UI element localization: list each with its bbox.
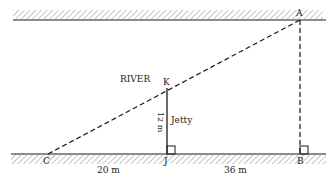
bottom-bank-hatching [11, 155, 326, 164]
line-ca-dashed [48, 20, 300, 154]
top-bank-hatching [13, 10, 323, 19]
jb-distance-label: 36 m [224, 165, 247, 175]
cj-distance-label: 20 m [97, 165, 120, 175]
jetty-length-label: 12 m [156, 112, 165, 133]
point-k-label: K [163, 77, 170, 87]
river-label: RIVER [120, 74, 150, 84]
point-j-label: J [163, 156, 168, 166]
point-c-label: C [43, 156, 50, 166]
river-jetty-diagram: RIVER A K C J B Jetty 12 m 20 m 36 m [0, 0, 334, 181]
right-angle-j [167, 146, 175, 154]
right-angle-b [300, 146, 308, 154]
point-a-label: A [295, 8, 303, 18]
point-b-label: B [297, 156, 304, 166]
jetty-label: Jetty [170, 115, 193, 125]
